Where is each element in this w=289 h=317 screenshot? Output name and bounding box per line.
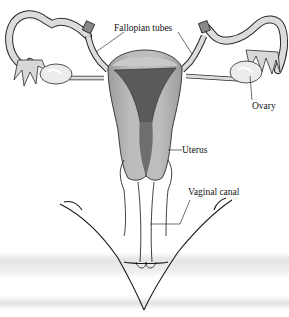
label-uterus: Uterus [182,146,207,156]
left-ovary [40,64,104,84]
label-ovary: Ovary [252,102,276,112]
label-vaginal-canal: Vaginal canal [188,188,239,198]
reproductive-system-illustration [0,0,289,317]
pelvic-outline [60,198,232,310]
label-fallopian-tubes: Fallopian tubes [114,24,172,34]
anatomy-diagram: Fallopian tubes Ovary Uterus Vaginal can… [0,0,289,317]
uterus [108,50,182,180]
